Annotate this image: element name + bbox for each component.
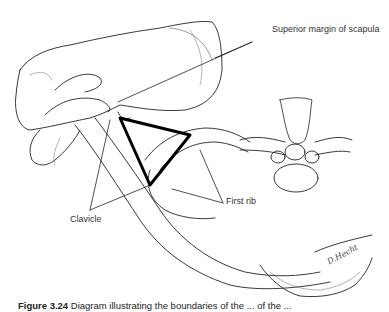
vertebra-drawing [240, 98, 352, 192]
label-superior-margin-of-scapula: Superior margin of scapula [272, 24, 380, 34]
leader-clavicle-1 [90, 120, 110, 210]
leader-clavicle-2 [90, 186, 148, 210]
caption-text: Diagram illustrating the boundaries of t… [71, 300, 292, 311]
scapula-drawing [16, 21, 222, 165]
label-clavicle: Clavicle [70, 214, 102, 224]
caption-number: Figure 3.24 [18, 300, 68, 311]
leader-first-rib-1 [172, 189, 223, 203]
figure-caption: Figure 3.24 Diagram illustrating the bou… [18, 300, 292, 311]
label-first-rib: First rib [226, 196, 256, 206]
leader-first-rib-2 [200, 150, 223, 203]
